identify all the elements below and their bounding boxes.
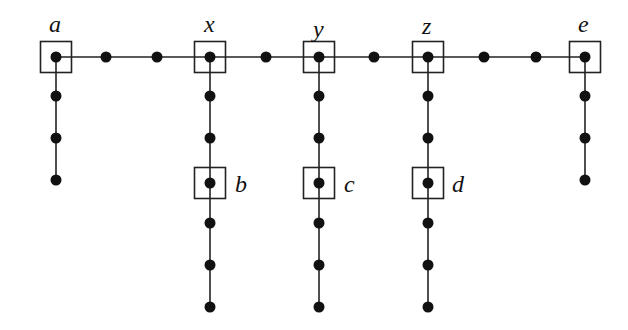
branch-node-z-3 [423,218,434,229]
label-y: y [311,16,324,42]
node-a [51,52,62,63]
spine-node-2 [261,52,272,63]
branch-node-x-3 [205,218,216,229]
label-z: z [421,13,432,39]
nodes [51,52,591,313]
branch-node-y-1 [314,133,325,144]
spine-node-3 [369,52,380,63]
branch-node-e-0 [580,91,591,102]
branch-node-x-1 [205,133,216,144]
branch-node-e-1 [580,133,591,144]
tree-diagram: a x y z e b c d [0,0,628,330]
node-b [205,178,216,189]
label-x: x [203,11,215,37]
node-x [205,52,216,63]
branch-node-x-4 [205,260,216,271]
node-c [314,178,325,189]
branch-node-x-0 [205,91,216,102]
branch-node-z-1 [423,133,434,144]
spine-node-1 [152,52,163,63]
label-c: c [344,171,355,197]
spine-node-5 [531,52,542,63]
branch-node-z-0 [423,91,434,102]
branch-node-y-4 [314,260,325,271]
branch-node-a-1 [51,133,62,144]
branch-node-z-4 [423,260,434,271]
label-e: e [578,11,589,37]
branch-node-z-5 [423,302,434,313]
label-b: b [235,171,247,197]
node-y [314,52,325,63]
branch-node-e-2 [580,175,591,186]
branch-node-x-5 [205,302,216,313]
branch-node-y-0 [314,91,325,102]
branch-node-y-3 [314,218,325,229]
spine-node-0 [101,52,112,63]
branch-node-a-0 [51,91,62,102]
branch-node-a-2 [51,175,62,186]
label-d: d [452,171,465,197]
label-a: a [49,11,61,37]
node-boxes [41,42,601,199]
node-d [423,178,434,189]
spine-node-4 [479,52,490,63]
node-z [423,52,434,63]
node-e [580,52,591,63]
branch-node-y-5 [314,302,325,313]
